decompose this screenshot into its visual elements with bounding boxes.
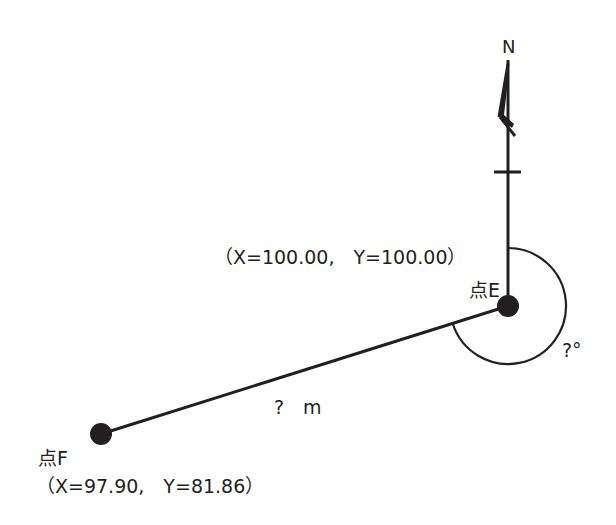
distance-label: ? m — [274, 398, 322, 417]
point-e-coordinates: （X=100.00, Y=100.00） — [214, 248, 466, 267]
point-f-label: 点F — [38, 449, 68, 468]
north-label: N — [502, 38, 515, 56]
point-f-marker — [90, 423, 112, 445]
angle-label: ?° — [562, 341, 582, 360]
point-e-marker — [497, 295, 519, 317]
point-e-label: 点E — [469, 281, 500, 300]
point-f-coordinates: （X=97.90, Y=81.86） — [36, 477, 264, 496]
